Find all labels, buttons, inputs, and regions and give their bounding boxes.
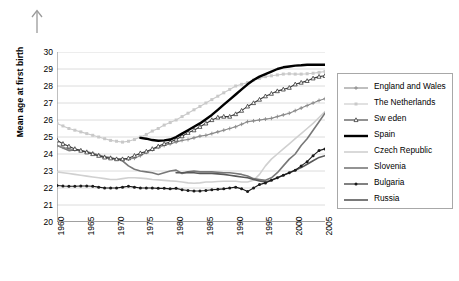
x-tick-label: 1990: [236, 209, 245, 243]
y-tick-label: 28: [31, 82, 53, 91]
y-tick-label: 20: [31, 218, 53, 227]
x-tick-label: 1985: [206, 209, 215, 243]
legend-item-label: Slovenia: [374, 162, 406, 171]
y-tick-label: 22: [31, 184, 53, 193]
legend-key-swatch: [343, 160, 369, 172]
chart-figure: Mean age at first birth 2021222324252627…: [0, 0, 459, 281]
series-layer: [57, 65, 325, 193]
y-tick-label: 25: [31, 133, 53, 142]
legend-item[interactable]: Slovenia: [338, 158, 452, 174]
x-tick-label: 2005: [325, 209, 334, 243]
legend-item-label: England and Wales: [374, 82, 446, 91]
x-tick-label: 1980: [176, 209, 185, 243]
y-tick-label: 27: [31, 99, 53, 108]
plot-area: [57, 52, 325, 222]
legend-key-swatch: [343, 96, 369, 108]
legend-item[interactable]: Russia: [338, 190, 452, 206]
x-tick-label: 1995: [265, 209, 274, 243]
legend-key-swatch: [343, 192, 369, 204]
legend-item-label: Spain: [374, 130, 395, 139]
y-axis-tick-labels: 2021222324252627282930: [29, 52, 53, 222]
legend-item-label: Bulgaria: [374, 178, 404, 187]
legend-item[interactable]: Bulgaria: [338, 174, 452, 190]
legend-item[interactable]: The Netherlands: [338, 94, 452, 110]
legend-item[interactable]: Spain: [338, 126, 452, 142]
y-tick-label: 24: [31, 150, 53, 159]
legend-key-swatch: [343, 144, 369, 156]
legend-item-label: Sw eden: [374, 114, 406, 123]
x-tick-label: 1960: [57, 209, 66, 243]
series-the-netherlands: [57, 70, 325, 144]
y-tick-label: 30: [31, 48, 53, 57]
legend-item[interactable]: Czech Republic: [338, 142, 452, 158]
legend-item-label: Czech Republic: [374, 146, 432, 155]
legend-key-swatch: [343, 128, 369, 140]
x-tick-label: 1970: [117, 209, 126, 243]
legend-item[interactable]: England and Wales: [338, 78, 452, 94]
x-tick-label: 1975: [146, 209, 155, 243]
chart-legend: England and WalesThe NetherlandsSw edenS…: [337, 73, 453, 209]
x-tick-label: 2000: [295, 209, 304, 243]
y-tick-label: 23: [31, 167, 53, 176]
x-axis-tick-labels: 1960196519701975198019851990199520002005: [57, 226, 325, 276]
y-tick-label: 29: [31, 65, 53, 74]
x-tick-label: 1965: [87, 209, 96, 243]
legend-item-label: The Netherlands: [374, 98, 435, 107]
chart-canvas: [57, 52, 325, 222]
up-arrow-icon: [28, 8, 46, 34]
series-russia: [176, 156, 325, 182]
legend-key-swatch: [343, 80, 369, 92]
legend-key-swatch: [343, 112, 369, 124]
legend-item-label: Russia: [374, 194, 399, 203]
legend-key-swatch: [343, 176, 369, 188]
y-tick-label: 26: [31, 116, 53, 125]
y-axis-title: Mean age at first birth: [15, 32, 29, 152]
y-tick-label: 21: [31, 201, 53, 210]
legend-item[interactable]: Sw eden: [338, 110, 452, 126]
